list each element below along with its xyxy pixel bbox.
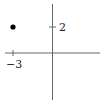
y-tick-label: 2 (59, 22, 66, 33)
coordinate-plane (0, 0, 105, 101)
x-tick-label: −3 (6, 59, 22, 70)
data-point (10, 24, 15, 29)
